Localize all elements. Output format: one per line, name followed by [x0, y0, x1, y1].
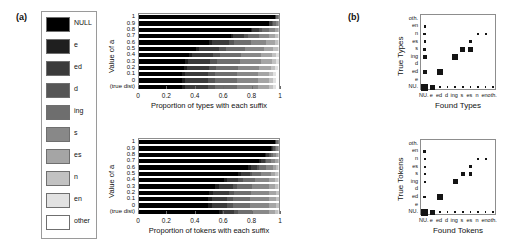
legend-swatch-icon — [46, 149, 70, 164]
bar-segment — [269, 191, 276, 196]
matrix-x-tick-label: es — [466, 217, 472, 223]
stacked-bar — [139, 59, 279, 64]
x-tick-mark — [195, 211, 196, 214]
x-tick-label: 1 — [278, 217, 282, 224]
bar-segment — [278, 47, 279, 52]
bar-segment — [250, 203, 270, 208]
y-axis-title: Value of a — [107, 40, 116, 73]
bar-segment — [278, 21, 279, 26]
legend-item-label: es — [74, 151, 81, 159]
stacked-bar — [139, 78, 279, 83]
legend-swatch-icon — [46, 105, 70, 120]
bar-segment — [139, 203, 208, 208]
bar-segment — [248, 34, 259, 39]
legend-item: e — [46, 38, 96, 56]
bar-segment — [278, 66, 279, 71]
bar-segment — [238, 210, 252, 215]
bar-segment — [139, 153, 265, 158]
bar-segment — [212, 203, 227, 208]
matrix-cell — [447, 211, 449, 213]
matrix-y-tick-label: NU. — [396, 208, 418, 214]
x-tick-label: 0.8 — [247, 217, 256, 224]
y-tick-label: (true dist) — [104, 83, 135, 89]
matrix-cell — [462, 211, 464, 213]
bar-segment — [213, 191, 228, 196]
bar-segment — [252, 184, 269, 189]
bar-segment — [269, 197, 276, 202]
matrix-cell — [453, 179, 458, 184]
x-tick-mark — [252, 211, 253, 214]
stacked-bar — [139, 191, 279, 196]
bar-segment — [259, 66, 270, 71]
bar-segment — [278, 34, 279, 39]
legend-swatch-icon — [46, 17, 70, 32]
stacked-bar — [139, 184, 279, 189]
matrix-cell — [470, 211, 472, 213]
bar-segment — [139, 21, 269, 26]
bar-segment — [234, 40, 251, 45]
bar-segment — [139, 72, 182, 77]
y-tick-label: 0.8 — [104, 26, 135, 32]
matrix-cell — [469, 40, 472, 43]
legend-swatch-icon — [46, 127, 70, 142]
matrix-x-tick-label: d — [445, 217, 448, 223]
bar-segment — [139, 53, 189, 58]
bar-segment — [278, 210, 279, 215]
matrix-cell — [477, 33, 479, 35]
bar-segment — [226, 47, 246, 52]
bar-segment — [276, 203, 279, 208]
bar-segment — [227, 178, 238, 183]
legend-swatch-icon — [46, 215, 70, 230]
matrix-x-tick-label: n — [475, 92, 478, 98]
bar-segment — [278, 153, 279, 158]
matrix-y-tick-label: e — [396, 76, 418, 82]
bar-segment — [258, 78, 269, 83]
matrix-cell — [423, 150, 426, 153]
legend-item: es — [46, 148, 96, 166]
matrix-cell — [477, 211, 479, 213]
legend-item: d — [46, 82, 96, 100]
stacked-bar — [139, 34, 279, 39]
bar-segment — [241, 53, 261, 58]
matrix-x-tick-label: ed — [436, 217, 442, 223]
bar-segment — [192, 53, 213, 58]
matrix-cell — [437, 194, 442, 199]
legend-item-label: e — [74, 41, 78, 49]
legend-swatch-icon — [46, 171, 70, 186]
types-stacked-bar: 10.90.80.70.60.50.40.30.20.10(true dist)… — [104, 13, 306, 119]
stacked-bar — [139, 66, 279, 71]
legend-item: ed — [46, 60, 96, 78]
legend-item-label: d — [74, 85, 78, 93]
x-tick-label: 0.2 — [162, 92, 171, 99]
matrix-cell — [424, 40, 426, 42]
matrix-x-tick-label: oth. — [488, 92, 497, 98]
matrix-cell — [469, 172, 472, 175]
matrix-y-axis-title: True Tokens — [396, 157, 405, 201]
stacked-bar — [139, 85, 279, 90]
matrix-cell — [470, 86, 471, 87]
matrix-x-tick-label: es — [466, 92, 472, 98]
stacked-bar — [139, 15, 279, 20]
bar-segment — [276, 72, 279, 77]
bar-segment — [259, 165, 266, 170]
y-tick-label: 0.9 — [104, 145, 135, 151]
bar-segment — [213, 53, 220, 58]
legend-item: s — [46, 126, 96, 144]
x-tick-mark — [223, 86, 224, 89]
types-confusion-matrix: NU.eeddingsesnenoth.NU.eeddingsesnenoth.… — [396, 14, 523, 124]
legend-item: other — [46, 214, 96, 232]
bar-segment — [212, 197, 227, 202]
matrix-cell — [477, 158, 479, 160]
bar-segment — [276, 85, 279, 90]
bar-segment — [278, 40, 279, 45]
tokens-confusion-matrix: NU.eeddingsesnenoth.NU.eeddingsesnenoth.… — [396, 139, 523, 249]
x-tick-mark — [166, 211, 167, 214]
stacked-bar — [139, 40, 279, 45]
bar-segment — [187, 66, 209, 71]
panel-b-label: (b) — [348, 12, 360, 22]
bar-segment — [215, 78, 237, 83]
bar-segment — [208, 78, 215, 83]
matrix-cell — [454, 211, 456, 213]
matrix-x-tick-label: ed — [436, 92, 442, 98]
legend-item: ing — [46, 104, 96, 122]
